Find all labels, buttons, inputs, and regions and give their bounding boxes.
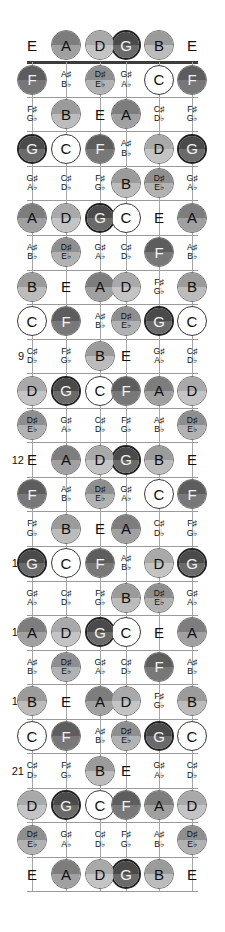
- note-f0-s1[interactable]: E: [17, 30, 47, 60]
- note-f9-s1[interactable]: C♯D♭: [17, 341, 47, 371]
- note-f3-s1[interactable]: G: [17, 134, 47, 164]
- note-f0-s2[interactable]: A: [51, 30, 81, 60]
- note-f4-s5[interactable]: D♯E♭: [144, 168, 174, 198]
- note-f21-s5[interactable]: G♯A♭: [144, 756, 174, 786]
- note-f17-s4[interactable]: C: [111, 617, 141, 647]
- note-f21-s4[interactable]: E: [111, 756, 141, 786]
- note-f9-s4[interactable]: E: [111, 341, 141, 371]
- note-f22-s6[interactable]: D: [177, 790, 207, 820]
- note-f24-s2[interactable]: A: [51, 859, 81, 889]
- note-f10-s1[interactable]: D: [17, 376, 47, 406]
- note-f7-s2[interactable]: E: [51, 272, 81, 302]
- note-f4-s4[interactable]: B: [111, 168, 141, 198]
- note-f12-s3[interactable]: D: [85, 445, 115, 475]
- note-f0-s4[interactable]: G: [111, 30, 141, 60]
- note-f8-s1[interactable]: C: [17, 306, 47, 336]
- note-f24-s4[interactable]: G: [111, 859, 141, 889]
- note-f18-s6[interactable]: A♯B♭: [177, 652, 207, 682]
- note-f16-s4[interactable]: B: [111, 583, 141, 613]
- note-f21-s2[interactable]: F♯G♭: [51, 756, 81, 786]
- note-f5-s5[interactable]: E: [144, 203, 174, 233]
- note-f15-s6[interactable]: G: [177, 548, 207, 578]
- note-f22-s5[interactable]: A: [144, 790, 174, 820]
- note-f16-s6[interactable]: G♯A♭: [177, 583, 207, 613]
- note-f9-s5[interactable]: G♯A♭: [144, 341, 174, 371]
- note-f14-s1[interactable]: F♯G♭: [17, 514, 47, 544]
- note-f23-s6[interactable]: D♯E♭: [177, 825, 207, 855]
- note-f14-s6[interactable]: F♯G♭: [177, 514, 207, 544]
- note-f12-s6[interactable]: E: [177, 445, 207, 475]
- note-f10-s6[interactable]: D: [177, 376, 207, 406]
- note-f19-s3[interactable]: A: [85, 686, 115, 716]
- note-f19-s5[interactable]: F♯G♭: [144, 686, 174, 716]
- note-f1-s3[interactable]: D♯E♭: [85, 65, 115, 95]
- note-f10-s5[interactable]: A: [144, 376, 174, 406]
- note-f4-s1[interactable]: G♯A♭: [17, 168, 47, 198]
- note-f22-s1[interactable]: D: [17, 790, 47, 820]
- note-f2-s1[interactable]: F♯G♭: [17, 99, 47, 129]
- note-f11-s6[interactable]: D♯E♭: [177, 410, 207, 440]
- note-f20-s1[interactable]: C: [17, 721, 47, 751]
- note-f7-s6[interactable]: B: [177, 272, 207, 302]
- note-f8-s4[interactable]: D♯E♭: [111, 306, 141, 336]
- note-f5-s2[interactable]: D: [51, 203, 81, 233]
- note-f9-s2[interactable]: F♯G♭: [51, 341, 81, 371]
- note-f22-s4[interactable]: F: [111, 790, 141, 820]
- note-f11-s4[interactable]: F♯G♭: [111, 410, 141, 440]
- note-f24-s1[interactable]: E: [17, 859, 47, 889]
- note-f1-s2[interactable]: A♯B♭: [51, 65, 81, 95]
- note-f17-s1[interactable]: A: [17, 617, 47, 647]
- note-f5-s3[interactable]: G: [85, 203, 115, 233]
- note-f2-s6[interactable]: F♯G♭: [177, 99, 207, 129]
- note-f4-s2[interactable]: C♯D♭: [51, 168, 81, 198]
- note-f13-s6[interactable]: F: [177, 479, 207, 509]
- note-f4-s6[interactable]: G♯A♭: [177, 168, 207, 198]
- note-f2-s2[interactable]: B: [51, 99, 81, 129]
- note-f12-s1[interactable]: E: [17, 445, 47, 475]
- note-f8-s2[interactable]: F: [51, 306, 81, 336]
- note-f2-s5[interactable]: C♯D♭: [144, 99, 174, 129]
- note-f3-s3[interactable]: F: [85, 134, 115, 164]
- note-f23-s2[interactable]: G♯A♭: [51, 825, 81, 855]
- note-f19-s1[interactable]: B: [17, 686, 47, 716]
- note-f12-s4[interactable]: G: [111, 445, 141, 475]
- note-f1-s4[interactable]: G♯A♭: [111, 65, 141, 95]
- note-f0-s3[interactable]: D: [85, 30, 115, 60]
- note-f13-s1[interactable]: F: [17, 479, 47, 509]
- note-f17-s6[interactable]: A: [177, 617, 207, 647]
- note-f1-s1[interactable]: F: [17, 65, 47, 95]
- note-f11-s2[interactable]: G♯A♭: [51, 410, 81, 440]
- note-f15-s2[interactable]: C: [51, 548, 81, 578]
- note-f23-s1[interactable]: D♯E♭: [17, 825, 47, 855]
- note-f23-s4[interactable]: F♯G♭: [111, 825, 141, 855]
- note-f7-s1[interactable]: B: [17, 272, 47, 302]
- note-f14-s4[interactable]: A: [111, 514, 141, 544]
- note-f12-s2[interactable]: A: [51, 445, 81, 475]
- note-f19-s2[interactable]: E: [51, 686, 81, 716]
- note-f10-s4[interactable]: F: [111, 376, 141, 406]
- note-f18-s4[interactable]: C♯D♭: [111, 652, 141, 682]
- note-f11-s1[interactable]: D♯E♭: [17, 410, 47, 440]
- note-f6-s5[interactable]: F: [144, 237, 174, 267]
- note-f6-s2[interactable]: D♯E♭: [51, 237, 81, 267]
- note-f14-s5[interactable]: C♯D♭: [144, 514, 174, 544]
- note-f23-s5[interactable]: A♯B♭: [144, 825, 174, 855]
- note-f0-s6[interactable]: E: [177, 30, 207, 60]
- note-f21-s6[interactable]: C♯D♭: [177, 756, 207, 786]
- note-f21-s1[interactable]: C♯D♭: [17, 756, 47, 786]
- note-f6-s1[interactable]: A♯B♭: [17, 237, 47, 267]
- note-f5-s1[interactable]: A: [17, 203, 47, 233]
- note-f14-s2[interactable]: B: [51, 514, 81, 544]
- note-f15-s1[interactable]: G: [17, 548, 47, 578]
- note-f7-s3[interactable]: A: [85, 272, 115, 302]
- note-f15-s4[interactable]: A♯B♭: [111, 548, 141, 578]
- note-f19-s4[interactable]: D: [111, 686, 141, 716]
- note-f24-s3[interactable]: D: [85, 859, 115, 889]
- note-f3-s5[interactable]: D: [144, 134, 174, 164]
- note-f22-s2[interactable]: G: [51, 790, 81, 820]
- note-f15-s5[interactable]: D: [144, 548, 174, 578]
- note-f9-s3[interactable]: B: [85, 341, 115, 371]
- note-f19-s6[interactable]: B: [177, 686, 207, 716]
- note-f12-s5[interactable]: B: [144, 445, 174, 475]
- note-f21-s3[interactable]: B: [85, 756, 115, 786]
